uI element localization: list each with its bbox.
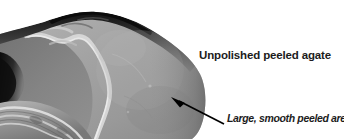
arrow-shaft bbox=[179, 101, 224, 124]
peel-highlight-upper bbox=[94, 30, 146, 66]
peel-speck-2 bbox=[127, 111, 130, 114]
page-title: Unpolished peeled agate bbox=[199, 48, 344, 62]
figure-canvas: Unpolished peeled agate Large, smooth pe… bbox=[0, 0, 344, 139]
leader-arrow bbox=[165, 90, 227, 130]
annotation-caption: Large, smooth peeled area bbox=[227, 112, 344, 125]
arrow-head bbox=[171, 97, 185, 108]
